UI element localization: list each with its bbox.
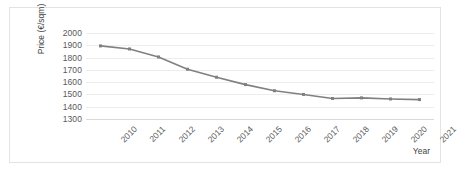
y-axis-tick-labels: 20001900180017001600150014001300 — [38, 33, 82, 119]
x-axis-tick-label: 2021 — [437, 124, 457, 144]
x-axis-tick-label: 2012 — [176, 124, 196, 144]
plot-area — [86, 33, 434, 119]
y-axis-tick-label: 1700 — [63, 65, 82, 75]
data-point-marker — [273, 89, 276, 92]
y-axis-tick-label: 1600 — [63, 77, 82, 87]
x-axis-tick-label: 2018 — [350, 124, 370, 144]
x-axis-tick-label: 2016 — [292, 124, 312, 144]
x-axis-tick-labels: 2010201120122013201420152016201720182019… — [86, 120, 434, 150]
x-axis-tick-label: 2013 — [205, 124, 225, 144]
x-axis-tick-label: 2010 — [118, 124, 138, 144]
data-point-marker — [360, 96, 363, 99]
x-axis-tick-label: 2017 — [321, 124, 341, 144]
data-point-marker — [128, 47, 131, 50]
data-point-marker — [302, 93, 305, 96]
data-point-marker — [389, 97, 392, 100]
data-point-marker — [186, 68, 189, 71]
y-axis-tick-label: 1900 — [63, 40, 82, 50]
y-axis-tick-label: 1300 — [63, 114, 82, 124]
y-axis-tick-label: 1500 — [63, 89, 82, 99]
x-axis-tick-label: 2015 — [263, 124, 283, 144]
x-axis-tick-label: 2011 — [147, 124, 167, 144]
data-point-marker — [157, 55, 160, 58]
x-axis-title: Year — [413, 146, 430, 156]
x-axis-tick-label: 2020 — [408, 124, 428, 144]
y-axis-tick-label: 1800 — [63, 53, 82, 63]
data-point-marker — [99, 44, 102, 47]
x-axis-tick-label: 2014 — [234, 124, 254, 144]
y-axis-tick-label: 2000 — [63, 28, 82, 38]
data-point-marker — [215, 76, 218, 79]
series-polyline — [101, 46, 420, 100]
y-axis-tick-label: 1400 — [63, 102, 82, 112]
chart-frame: Price (€/sqm) 20001900180017001600150014… — [9, 7, 441, 163]
data-point-marker — [331, 97, 334, 100]
data-point-marker — [418, 98, 421, 101]
price-line-series — [86, 33, 434, 119]
x-axis-tick-label: 2019 — [379, 124, 399, 144]
data-point-marker — [244, 83, 247, 86]
series-markers — [99, 44, 421, 101]
